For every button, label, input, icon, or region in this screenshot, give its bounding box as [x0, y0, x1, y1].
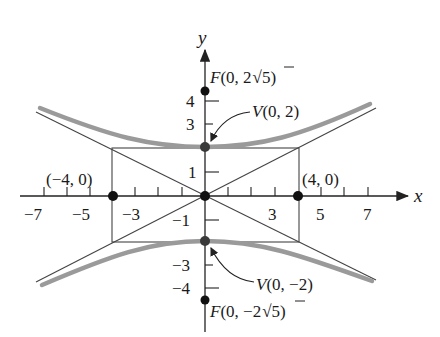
- hyperbola-lower-branch: [42, 241, 372, 285]
- svg-text:F(0, −2√5): F(0, −2√5): [209, 302, 286, 321]
- vertex-top-label: V(0, 2): [252, 102, 299, 121]
- co-vertex-right-point: [293, 191, 303, 201]
- y-axis-label: y: [196, 27, 207, 48]
- y-tick-label: −3: [172, 256, 190, 275]
- y-tick-label: 3: [186, 115, 195, 134]
- vertex-bottom-label: V(0, −2): [256, 275, 313, 294]
- x-tick-label: −5: [72, 205, 90, 224]
- focus-top-point: [201, 87, 210, 96]
- hyperbola-diagram: x y −7 −5 −3 3 5 7 4 3 1 −1 −3 −4 F(0, 2…: [0, 0, 440, 337]
- vertex-top-leader: [211, 112, 250, 141]
- co-vertex-left-point: [108, 191, 118, 201]
- focus-bottom-point: [201, 296, 210, 305]
- x-tick-label: 3: [268, 205, 277, 224]
- x-tick-label: −3: [122, 205, 140, 224]
- x-tick-label: −7: [24, 205, 43, 224]
- y-tick-label: −1: [172, 211, 190, 230]
- y-tick-label: −4: [172, 279, 191, 298]
- x-tick-label: 5: [316, 205, 325, 224]
- x-axis-label: x: [413, 185, 423, 206]
- svg-text:F(0, 2√5): F(0, 2√5): [209, 68, 276, 87]
- focus-bottom-label: F(0, −2√5): [209, 301, 305, 321]
- origin-point: [200, 191, 210, 201]
- focus-top-label: F(0, 2√5): [209, 67, 294, 87]
- co-vertex-right-label: (4, 0): [302, 170, 339, 189]
- co-vertex-left-label: (−4, 0): [46, 170, 92, 189]
- x-tick-label: 7: [363, 205, 372, 224]
- vertex-bottom-leader: [211, 248, 254, 282]
- vertex-bottom-point: [200, 236, 210, 246]
- y-tick-label: 1: [188, 163, 197, 182]
- y-tick-label: 4: [186, 92, 195, 111]
- vertex-top-point: [200, 142, 210, 152]
